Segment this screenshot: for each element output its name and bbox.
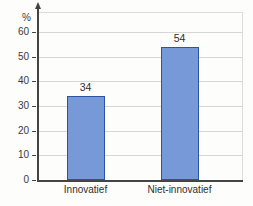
- plot-frame-top: [37, 12, 243, 13]
- y-tick-mark-30: [32, 106, 36, 107]
- bar-value-label-0: 34: [56, 82, 116, 93]
- bar-1: [161, 47, 199, 180]
- bar-chart: % 010203040506034Innovatief54Niet-innova…: [0, 0, 253, 206]
- y-tick-label-30: 30: [0, 101, 29, 111]
- bar-value-label-1: 54: [150, 33, 210, 44]
- y-tick-mark-0: [32, 180, 36, 181]
- y-tick-mark-20: [32, 131, 36, 132]
- bar-0: [67, 96, 105, 180]
- y-tick-mark-40: [32, 81, 36, 82]
- x-category-label-0: Innovatief: [36, 184, 136, 195]
- y-tick-label-40: 40: [0, 76, 29, 86]
- y-tick-label-20: 20: [0, 126, 29, 136]
- y-tick-label-60: 60: [0, 27, 29, 37]
- y-tick-mark-60: [32, 32, 36, 33]
- y-axis-line: [37, 8, 39, 180]
- y-tick-mark-50: [32, 57, 36, 58]
- gridline-50: [38, 57, 243, 58]
- y-tick-label-50: 50: [0, 52, 29, 62]
- y-axis-unit-label: %: [0, 12, 31, 23]
- y-tick-label-0: 0: [0, 175, 29, 185]
- y-axis-arrow-icon: [35, 2, 41, 9]
- y-tick-mark-10: [32, 155, 36, 156]
- y-tick-label-10: 10: [0, 150, 29, 160]
- x-axis-line: [37, 180, 243, 182]
- x-category-label-1: Niet-innovatief: [130, 184, 230, 195]
- gridline-60: [38, 32, 243, 33]
